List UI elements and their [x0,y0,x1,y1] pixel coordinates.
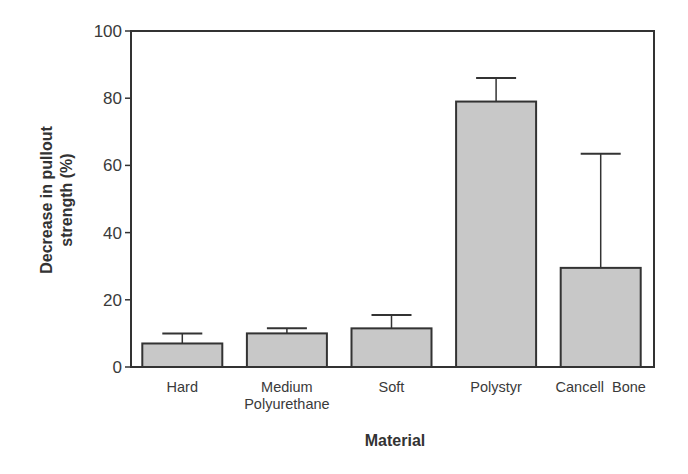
x-category-label: Medium [261,379,313,395]
bar-chart: 020406080100 HardMediumPolyurethaneSoftP… [0,0,688,474]
bar-cancell-bone [561,154,641,367]
y-axis-title-line: strength (%) [58,153,75,246]
x-category-label: Cancell Bone [556,379,646,395]
bar-rect [247,333,327,367]
bar-medium-polyurethane [247,328,327,367]
bars [142,78,640,367]
bar-rect [456,102,536,367]
bar-polystyr [456,78,536,367]
x-category-label: Polystyr [470,379,522,395]
y-axis-ticks: 020406080100 [94,22,131,377]
bar-hard [142,333,222,367]
y-tick-label: 80 [103,89,122,108]
y-tick-label: 100 [94,22,122,41]
x-category-label: Hard [167,379,198,395]
x-axis-category-labels: HardMediumPolyurethaneSoftPolystyrCancel… [167,379,646,412]
x-category-label: Polyurethane [244,396,329,412]
bar-soft [352,315,432,367]
y-tick-label: 60 [103,156,122,175]
y-axis-title: Decrease in pulloutstrength (%) [38,126,75,274]
x-axis-title: Material [365,432,425,449]
y-axis-title-line: Decrease in pullout [38,126,55,274]
y-tick-label: 0 [113,358,122,377]
bar-rect [142,343,222,367]
y-tick-label: 40 [103,224,122,243]
bar-rect [561,268,641,367]
y-tick-label: 20 [103,291,122,310]
x-category-label: Soft [379,379,405,395]
bar-rect [352,328,432,367]
